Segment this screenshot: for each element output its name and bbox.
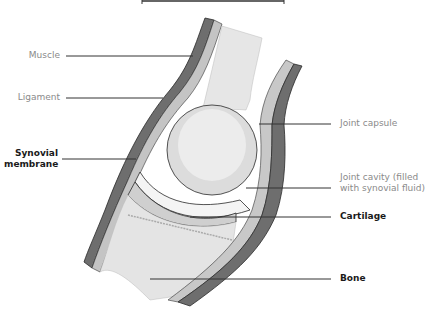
joint-illustration [0,0,434,312]
label-muscle: Muscle [8,50,60,61]
label-joint-cavity: Joint cavity (filled with synovial fluid… [340,172,425,194]
label-cavity-line1: Joint cavity (filled [340,172,425,183]
label-bone: Bone [340,273,366,284]
label-synovial-line1: Synovial [4,148,58,159]
label-joint-capsule: Joint capsule [340,118,397,129]
label-synovial-membrane: Synovial membrane [4,148,58,170]
label-cavity-line2: with synovial fluid) [340,183,425,194]
label-cartilage: Cartilage [340,211,386,222]
label-ligament: Ligament [8,92,60,103]
label-synovial-line2: membrane [4,159,58,170]
